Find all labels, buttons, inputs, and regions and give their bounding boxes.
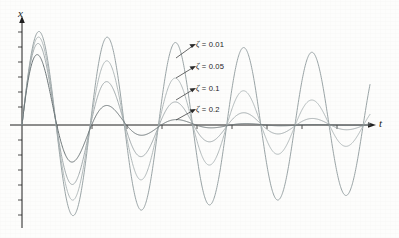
series-label-zeta-02: ζ = 0.2 — [196, 106, 220, 114]
series-curves-group — [22, 31, 370, 215]
series-label-value: = 0.05 — [202, 62, 224, 71]
axes-group — [10, 16, 376, 228]
y-axis-label: x — [18, 8, 23, 19]
zeta-symbol-icon: ζ — [196, 40, 200, 49]
plot-area — [0, 0, 399, 238]
curve-zeta-0-01 — [22, 31, 370, 215]
series-label-zeta-001: ζ = 0.01 — [196, 41, 224, 49]
zeta-symbol-icon: ζ — [196, 62, 200, 71]
series-label-zeta-005: ζ = 0.05 — [196, 63, 224, 71]
zeta-symbol-icon: ζ — [196, 84, 200, 93]
series-label-value: = 0.2 — [202, 105, 220, 114]
zeta-symbol-icon: ζ — [196, 105, 200, 114]
x-axis-label: t — [379, 118, 382, 129]
y-axis-ticks — [18, 32, 22, 215]
series-label-value: = 0.1 — [202, 84, 220, 93]
annotation-leader-lines — [176, 44, 196, 120]
series-label-value: = 0.01 — [202, 40, 224, 49]
damped-oscillation-figure: x t ζ = 0.01 ζ = 0.05 ζ = 0.1 ζ = 0.2 — [0, 0, 399, 238]
series-label-zeta-01: ζ = 0.1 — [196, 85, 220, 93]
